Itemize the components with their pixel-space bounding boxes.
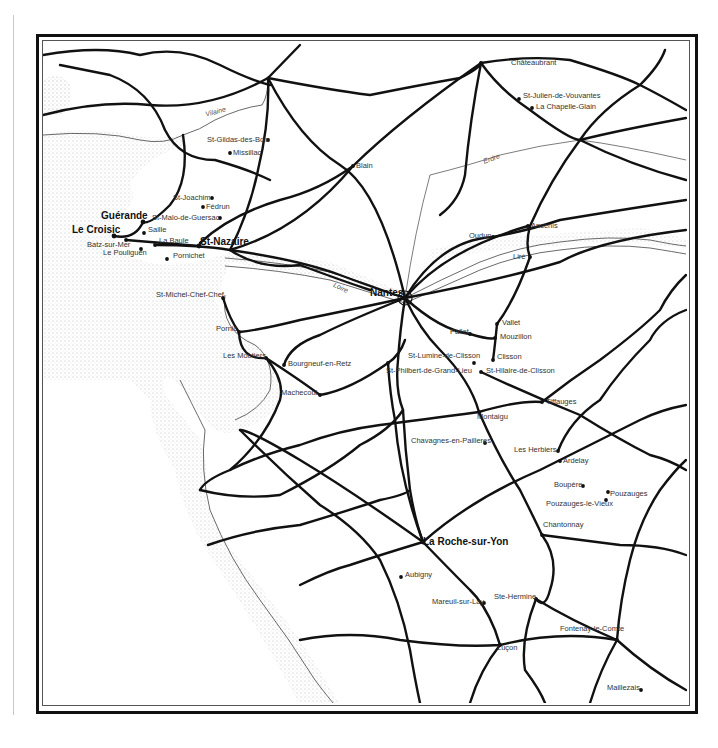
town-marker-icon bbox=[491, 358, 495, 362]
town-marker-icon bbox=[495, 322, 499, 326]
town-marker-icon bbox=[399, 575, 403, 579]
town-marker-icon bbox=[386, 361, 390, 365]
place-label: St-Malo-de-Guersac bbox=[152, 214, 220, 222]
place-label: St-Hilaire-de-Clisson bbox=[486, 367, 555, 375]
place-label: Luçon bbox=[497, 644, 517, 652]
place-label: Le Croisic bbox=[72, 225, 120, 235]
town-marker-icon bbox=[540, 400, 544, 404]
town-marker-icon bbox=[526, 224, 530, 228]
place-label: Guérande bbox=[101, 211, 148, 221]
coastline-stipple bbox=[43, 76, 686, 705]
place-label: Missillac bbox=[233, 149, 261, 157]
place-label: Les Moutiers bbox=[223, 352, 266, 360]
place-label: Aubigny bbox=[405, 571, 432, 579]
place-label: Oudun bbox=[469, 232, 492, 240]
town-marker-icon bbox=[472, 361, 476, 365]
place-label: St-Nazaire bbox=[200, 237, 249, 247]
place-label: Pornichet bbox=[173, 252, 205, 260]
town-marker-icon bbox=[210, 196, 214, 200]
place-label: Saille bbox=[148, 226, 166, 234]
place-label: Bourgneuf-en-Retz bbox=[288, 360, 351, 368]
town-marker-icon bbox=[351, 164, 355, 168]
place-label: La Roche-sur-Yon bbox=[423, 537, 508, 547]
place-label: Chavagnes-en-Pailleres bbox=[411, 437, 491, 445]
place-label: Maillezais bbox=[607, 684, 640, 692]
town-marker-icon bbox=[491, 235, 495, 239]
place-label: Boupère bbox=[554, 481, 582, 489]
place-label: Ancenis bbox=[531, 222, 558, 230]
place-label: Tiffauges bbox=[546, 398, 576, 406]
place-label: Nantes bbox=[370, 288, 403, 298]
town-marker-icon bbox=[479, 370, 483, 374]
town-marker-icon bbox=[615, 638, 619, 642]
place-label: Pouzauges bbox=[610, 490, 648, 498]
place-label: St-Joachim bbox=[173, 194, 211, 202]
place-label: Chantonnay bbox=[543, 521, 583, 529]
place-label: La Baule bbox=[159, 237, 189, 245]
place-label: Fédrun bbox=[206, 203, 230, 211]
town-marker-icon bbox=[517, 97, 521, 101]
town-marker-icon bbox=[165, 257, 169, 261]
place-label: La Chapelle-Glain bbox=[536, 103, 596, 111]
place-label: Vallet bbox=[502, 319, 520, 327]
town-marker-icon bbox=[493, 336, 497, 340]
place-label: Le Pouliguen bbox=[103, 249, 147, 257]
place-label: Ardelay bbox=[563, 457, 588, 465]
place-label: Pallet bbox=[450, 328, 469, 336]
place-label: Montaigu bbox=[477, 413, 508, 421]
town-marker-icon bbox=[318, 393, 322, 397]
place-label: Machecoul bbox=[281, 389, 317, 397]
place-label: Clisson bbox=[497, 353, 522, 361]
town-marker-icon bbox=[228, 151, 232, 155]
place-label: Mouzillon bbox=[500, 333, 532, 341]
place-label: Mareuil-sur-Lay bbox=[432, 598, 484, 606]
town-marker-icon bbox=[558, 459, 562, 463]
place-label: Châteaubrant bbox=[511, 59, 556, 67]
town-marker-icon bbox=[530, 106, 534, 110]
place-label: Liré bbox=[513, 253, 526, 261]
place-label: Les Herbiers bbox=[514, 446, 557, 454]
place-label: St-Michel-Chef-Chef bbox=[156, 291, 224, 299]
town-marker-icon bbox=[528, 255, 532, 259]
place-label: Fontenay-le-Comte bbox=[560, 625, 624, 633]
town-marker-icon bbox=[479, 61, 483, 65]
map-canvas bbox=[0, 0, 718, 748]
place-label: Blain bbox=[356, 162, 373, 170]
town-marker-icon bbox=[201, 205, 205, 209]
town-marker-icon bbox=[153, 243, 157, 247]
place-label: St-Julien-de-Vouvantes bbox=[523, 92, 601, 100]
place-label: Pornic bbox=[216, 325, 237, 333]
place-label: Pouzauges-le-Vieux bbox=[546, 500, 613, 508]
place-label: Ste-Hermine bbox=[494, 593, 536, 601]
town-marker-icon bbox=[282, 363, 286, 367]
place-label: St-Gildas-des-Bois bbox=[207, 136, 270, 144]
town-marker-icon bbox=[237, 330, 241, 334]
town-marker-icon bbox=[142, 231, 146, 235]
place-label: St-Lumine-de-Clisson bbox=[408, 352, 480, 360]
town-marker-icon bbox=[540, 533, 544, 537]
rivers bbox=[43, 78, 686, 705]
place-label: St-Philbert-de-Grand-Lieu bbox=[386, 367, 472, 375]
